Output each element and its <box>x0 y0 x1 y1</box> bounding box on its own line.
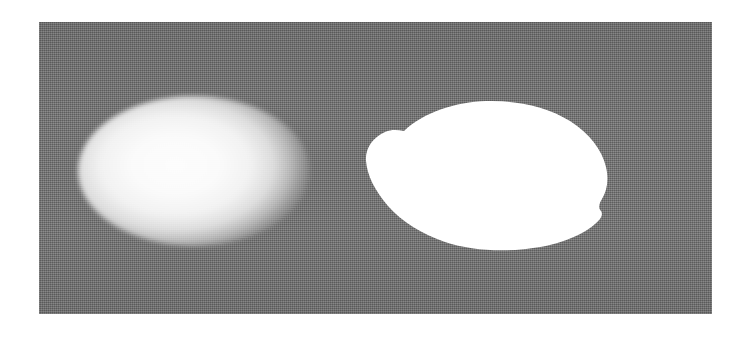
grayscale-image-panel <box>39 22 712 314</box>
segmentation-mask-path <box>366 101 608 250</box>
figure-root <box>0 0 747 337</box>
figure-caption <box>0 0 1 1</box>
segmentation-mask-shape <box>352 95 642 255</box>
shaded-ellipsoid-object <box>78 96 310 246</box>
segmentation-mask-object <box>352 95 642 255</box>
